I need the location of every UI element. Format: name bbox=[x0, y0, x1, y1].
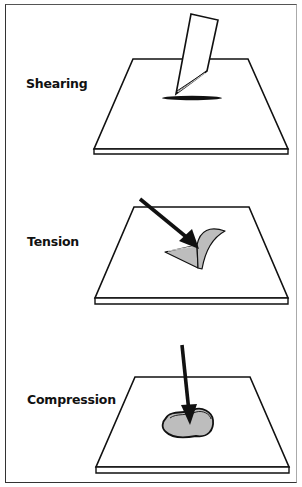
diagram-illustrations bbox=[0, 0, 302, 487]
shearing-cut-slot bbox=[162, 96, 222, 100]
